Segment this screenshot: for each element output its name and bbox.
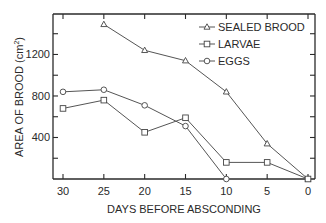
legend-label: EGGS — [218, 55, 250, 67]
x-tick-label: 25 — [98, 185, 110, 197]
x-tick-label: 0 — [305, 185, 311, 197]
legend-label: LARVAE — [218, 38, 260, 50]
y-tick-labels: 4008001200 — [26, 48, 50, 143]
legend-item-larvae: LARVAE — [199, 38, 260, 50]
triangle-marker — [223, 89, 229, 94]
legend-item-sealed-brood: SEALED BROOD — [199, 21, 305, 33]
square-marker — [224, 160, 230, 166]
circle-marker — [224, 176, 230, 182]
square-marker — [60, 106, 66, 112]
triangle-marker — [101, 21, 107, 26]
circle-marker — [142, 103, 148, 109]
y-tick-label: 1200 — [26, 48, 50, 60]
x-tick-label: 15 — [179, 185, 191, 197]
square-marker — [101, 97, 107, 103]
square-icon — [204, 41, 210, 47]
plot-frame — [53, 14, 315, 179]
circle-marker — [60, 89, 66, 95]
circle-icon — [204, 58, 210, 64]
x-axis-title: DAYS BEFORE ABSCONDING — [107, 203, 261, 215]
y-tick-label: 400 — [32, 131, 50, 143]
x-tick-labels: 302520151050 — [57, 185, 311, 197]
y-tick-label: 800 — [32, 90, 50, 102]
legend-label: SEALED BROOD — [218, 21, 305, 33]
legend-item-eggs: EGGS — [199, 55, 250, 67]
brood-area-chart: 302520151050 4008001200 DAYS BEFORE ABSC… — [0, 0, 326, 223]
x-tick-label: 20 — [139, 185, 151, 197]
square-marker — [264, 160, 270, 166]
legend: SEALED BROODLARVAEEGGS — [199, 21, 305, 67]
axis-ticks — [53, 14, 315, 179]
y-axis-title-close: ) — [13, 37, 25, 41]
x-tick-label: 5 — [264, 185, 270, 197]
x-tick-label: 10 — [220, 185, 232, 197]
y-axis-title: AREA OF BROOD (cm2) — [13, 37, 25, 157]
y-axis-title-main: AREA OF BROOD (cm — [13, 45, 25, 157]
circle-marker — [183, 123, 189, 129]
circle-marker — [101, 87, 107, 93]
series-larvae — [60, 97, 311, 181]
series-line — [63, 100, 308, 179]
square-marker — [142, 130, 148, 136]
square-marker — [183, 115, 189, 121]
square-marker — [305, 176, 311, 182]
x-tick-label: 30 — [57, 185, 69, 197]
data-series — [60, 21, 311, 182]
triangle-marker — [142, 47, 148, 52]
